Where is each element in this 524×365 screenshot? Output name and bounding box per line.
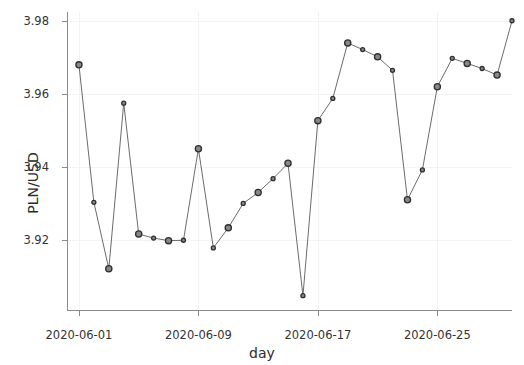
x-tick-mark — [79, 311, 80, 316]
data-point — [255, 189, 261, 195]
x-tick-mark — [318, 311, 319, 316]
data-point — [361, 48, 365, 52]
data-point — [271, 177, 275, 181]
data-point — [106, 266, 112, 272]
data-point — [165, 238, 171, 244]
data-point — [136, 231, 142, 237]
series-plot — [67, 12, 512, 311]
data-point — [345, 40, 351, 46]
data-point — [315, 118, 321, 124]
data-point — [76, 62, 82, 68]
data-point — [301, 294, 305, 298]
y-tick-label: 3.96 — [23, 87, 49, 101]
data-point — [404, 197, 410, 203]
x-tick-mark — [437, 311, 438, 316]
data-point — [181, 238, 185, 242]
series-line-pln-usd — [79, 21, 512, 296]
data-point — [285, 160, 291, 166]
data-point — [122, 101, 126, 105]
data-point — [241, 201, 245, 205]
data-point — [450, 56, 454, 60]
data-point — [420, 168, 424, 172]
data-point — [195, 146, 201, 152]
plot-area: 3.923.943.963.98 2020-06-012020-06-09202… — [67, 12, 512, 311]
y-tick-label: 3.92 — [23, 233, 49, 247]
x-tick-label: 2020-06-09 — [165, 328, 232, 342]
x-tick-label: 2020-06-01 — [46, 328, 113, 342]
data-point — [464, 60, 470, 66]
data-point — [375, 54, 381, 60]
data-point — [211, 246, 215, 250]
data-point — [510, 19, 514, 23]
series-markers — [76, 19, 514, 298]
data-point — [494, 72, 500, 78]
x-tick-mark — [198, 311, 199, 316]
y-tick-label: 3.94 — [23, 160, 49, 174]
data-point — [92, 200, 96, 204]
data-point — [331, 96, 335, 100]
chart-container: PLN/USD day 3.923.943.963.98 2020-06-012… — [0, 0, 524, 365]
data-point — [225, 225, 231, 231]
x-tick-label: 2020-06-25 — [404, 328, 471, 342]
y-tick-label: 3.98 — [23, 14, 49, 28]
x-tick-label: 2020-06-17 — [284, 328, 351, 342]
data-point — [480, 67, 484, 71]
data-point — [434, 84, 440, 90]
data-point — [391, 68, 395, 72]
x-axis-title: day — [0, 345, 524, 361]
data-point — [152, 236, 156, 240]
